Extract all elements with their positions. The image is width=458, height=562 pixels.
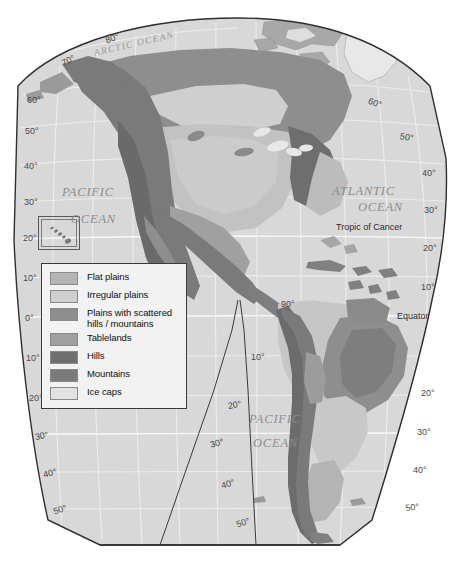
legend-label-ice-caps: Ice caps xyxy=(87,386,122,398)
legend-label-hills: Hills xyxy=(87,350,104,362)
legend-swatch-irregular-plains xyxy=(50,290,78,303)
legend-swatch-tablelands xyxy=(50,333,78,346)
map-legend: Flat plains Irregular plains Plains with… xyxy=(41,263,187,409)
legend-label-plains-scattered: Plains with scattered hills / mountains xyxy=(87,307,172,329)
legend-item: Tablelands xyxy=(50,332,180,347)
legend-item: Irregular plains xyxy=(50,289,180,304)
legend-label-tablelands: Tablelands xyxy=(87,332,131,344)
physical-map-figure: Flat plains Irregular plains Plains with… xyxy=(0,0,458,562)
legend-swatch-flat-plains xyxy=(50,272,78,285)
legend-label-irregular-plains: Irregular plains xyxy=(87,289,148,301)
legend-swatch-ice-caps xyxy=(50,387,78,400)
hawaii-inset-box xyxy=(38,216,80,250)
legend-swatch-mountains xyxy=(50,369,78,382)
hawaii-islands xyxy=(39,217,81,251)
legend-swatch-hills xyxy=(50,351,78,364)
legend-item: Mountains xyxy=(50,368,180,383)
legend-swatch-plains-scattered xyxy=(50,308,78,321)
legend-item: Flat plains xyxy=(50,271,180,286)
legend-item: Plains with scattered hills / mountains xyxy=(50,307,180,329)
legend-item: Hills xyxy=(50,350,180,365)
legend-label-mountains: Mountains xyxy=(87,368,130,380)
legend-label-flat-plains: Flat plains xyxy=(87,271,129,283)
legend-item: Ice caps xyxy=(50,386,180,401)
